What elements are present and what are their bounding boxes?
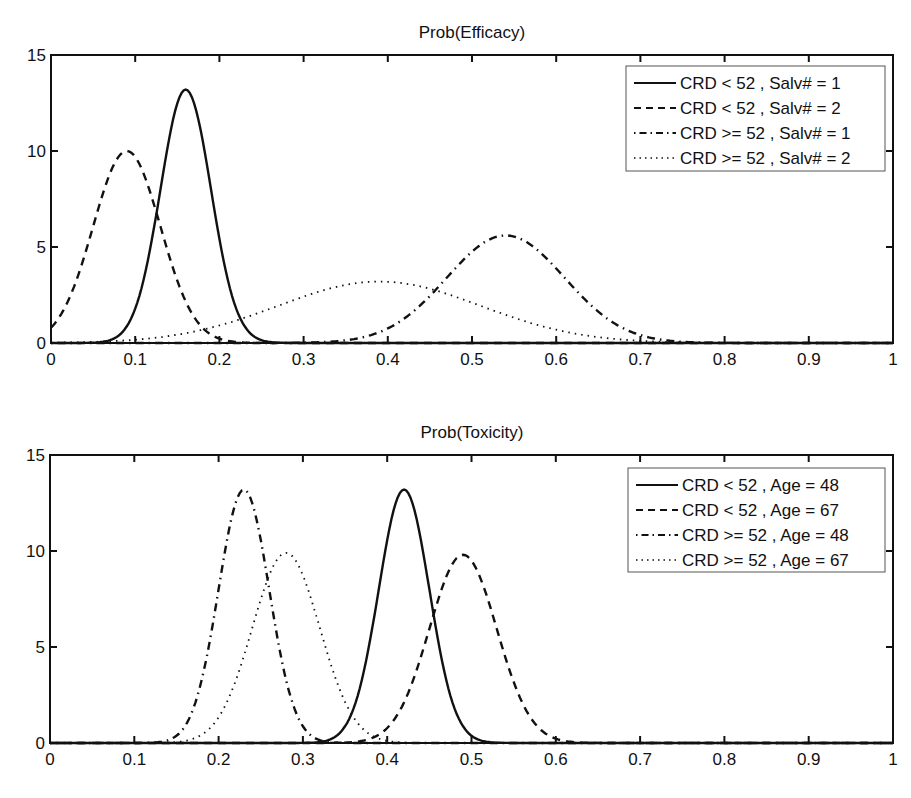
- figure: Prob(Efficacy) 00.10.20.30.40.50.60.70.8…: [0, 0, 911, 798]
- x-tick-label: 0.1: [122, 750, 146, 769]
- series-curve-dashdot: [51, 236, 893, 344]
- legend-label: CRD >= 52 , Salv# = 1: [680, 124, 851, 143]
- y-tick-label: 5: [37, 238, 46, 257]
- y-tick-label: 10: [26, 542, 45, 561]
- series-curve-dashed: [51, 151, 893, 343]
- y-tick-label: 15: [26, 446, 45, 465]
- legend-label: CRD < 52 , Age = 48: [682, 476, 839, 495]
- y-tick-label: 0: [36, 734, 45, 753]
- x-tick-label: 0.4: [376, 350, 400, 369]
- x-tick-label: 0.8: [713, 350, 737, 369]
- series-curve-dotted: [50, 553, 893, 743]
- efficacy-legend: CRD < 52 , Salv# = 1 CRD < 52 , Salv# = …: [626, 66, 885, 171]
- efficacy-plot: Prob(Efficacy) 00.10.20.30.40.50.60.70.8…: [27, 23, 898, 369]
- x-tick-label: 0.2: [208, 350, 232, 369]
- x-tick-label: 0.3: [292, 350, 316, 369]
- x-tick-label: 0.6: [544, 750, 568, 769]
- toxicity-plot: Prob(Toxicity) 00.10.20.30.40.50.60.70.8…: [26, 423, 898, 769]
- x-tick-label: 0.5: [460, 750, 484, 769]
- x-tick-label: 0.4: [375, 750, 399, 769]
- x-tick-label: 1: [888, 350, 897, 369]
- x-tick-label: 0.6: [544, 350, 568, 369]
- legend-label: CRD < 52 , Salv# = 1: [680, 74, 841, 93]
- x-tick-label: 0.7: [628, 750, 652, 769]
- y-tick-label: 15: [27, 46, 46, 65]
- x-tick-label: 0: [45, 750, 54, 769]
- series-curve-dashed: [50, 555, 893, 743]
- y-tick-label: 0: [37, 334, 46, 353]
- legend-label: CRD >= 52 , Age = 48: [682, 526, 849, 545]
- x-tick-label: 0.1: [123, 350, 147, 369]
- legend-label: CRD >= 52 , Salv# = 2: [680, 149, 851, 168]
- x-tick-label: 0.9: [797, 350, 821, 369]
- efficacy-title: Prob(Efficacy): [419, 23, 525, 42]
- legend-label: CRD < 52 , Salv# = 2: [680, 99, 841, 118]
- legend-label: CRD < 52 , Age = 67: [682, 501, 839, 520]
- x-tick-label: 1: [888, 750, 897, 769]
- y-tick-label: 10: [27, 142, 46, 161]
- x-tick-label: 0.3: [291, 750, 315, 769]
- toxicity-legend: CRD < 52 , Age = 48 CRD < 52 , Age = 67 …: [628, 468, 885, 572]
- legend-label: CRD >= 52 , Age = 67: [682, 551, 849, 570]
- x-tick-label: 0.7: [629, 350, 653, 369]
- series-curve-dotted: [51, 282, 893, 343]
- y-tick-label: 5: [36, 638, 45, 657]
- x-tick-label: 0.9: [797, 750, 821, 769]
- x-tick-label: 0: [46, 350, 55, 369]
- x-tick-label: 0.2: [207, 750, 231, 769]
- x-tick-label: 0.5: [460, 350, 484, 369]
- toxicity-title: Prob(Toxicity): [421, 423, 524, 442]
- x-tick-label: 0.8: [713, 750, 737, 769]
